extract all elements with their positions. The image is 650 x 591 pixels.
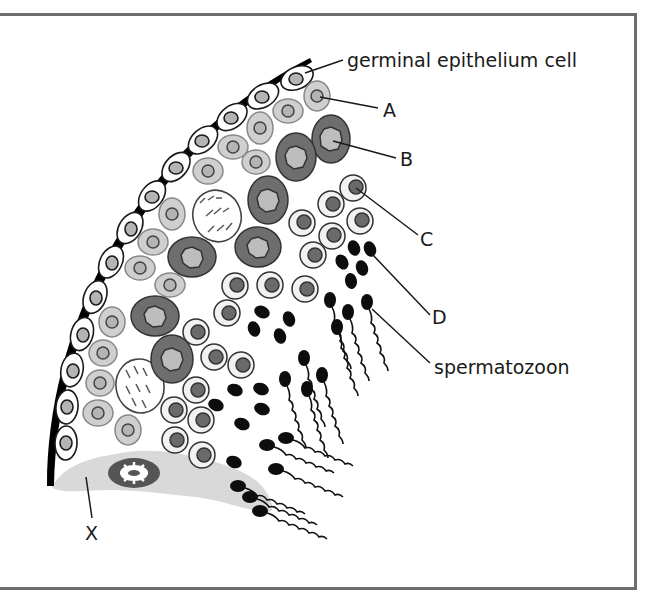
leader-spermatozoon <box>372 309 430 363</box>
label-a: A <box>383 99 396 121</box>
frame-border-bottom <box>0 587 637 590</box>
frame-border-top <box>0 13 637 16</box>
diagram-canvas: germinal epithelium cell A B C D spermat… <box>0 0 650 591</box>
seminiferous-tubule-figure: germinal epithelium cell A B C D spermat… <box>0 0 650 591</box>
label-d: D <box>432 306 447 328</box>
spermatozoon <box>278 432 353 466</box>
label-x: X <box>85 522 98 544</box>
label-spermatozoon: spermatozoon <box>434 356 570 378</box>
spermatozoon <box>252 505 327 539</box>
frame-border-right <box>634 13 637 590</box>
spermatozoon <box>331 319 358 396</box>
label-germinal-epithelium-cell: germinal epithelium cell <box>347 49 577 71</box>
spermatozoon <box>342 304 369 381</box>
leader-d <box>372 254 430 315</box>
label-b: B <box>400 148 413 170</box>
spermatozoon <box>268 463 343 497</box>
spermatozoon <box>361 294 388 371</box>
label-c: C <box>420 228 433 250</box>
sertoli-nucleus <box>108 458 160 488</box>
